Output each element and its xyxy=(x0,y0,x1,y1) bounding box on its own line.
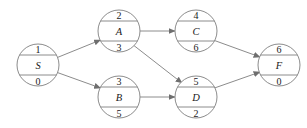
node-s-top-label: 1 xyxy=(36,44,41,55)
node-f-top-label: 6 xyxy=(277,44,282,55)
node-a-top-label: 2 xyxy=(117,10,122,21)
node-f-middle-label: F xyxy=(275,60,283,71)
node-b-middle-label: B xyxy=(116,92,123,103)
node-f-bottom-label: 0 xyxy=(277,76,282,87)
node-d[interactable]: 5 D 2 xyxy=(175,76,217,119)
node-s-bottom-label: 0 xyxy=(36,76,41,87)
node-c-bottom-label: 6 xyxy=(194,42,199,53)
node-c[interactable]: 4 C 6 xyxy=(175,10,217,53)
node-c-middle-label: C xyxy=(192,26,200,37)
edge-d-f xyxy=(215,72,261,88)
node-d-bottom-label: 2 xyxy=(194,108,199,119)
edge-s-b xyxy=(58,73,101,88)
node-b-bottom-label: 5 xyxy=(117,108,122,119)
edge-s-a xyxy=(58,40,101,57)
node-a-middle-label: A xyxy=(115,26,123,37)
node-s-middle-label: S xyxy=(35,60,41,71)
node-d-top-label: 5 xyxy=(194,76,199,87)
network-diagram: 1 S 0 2 A 3 3 B 5 4 C 6 xyxy=(0,0,307,128)
edge-c-f xyxy=(215,41,261,58)
node-a-bottom-label: 3 xyxy=(117,42,122,53)
node-b[interactable]: 3 B 5 xyxy=(98,76,140,119)
edge-layer xyxy=(58,31,260,97)
node-b-top-label: 3 xyxy=(117,76,122,87)
node-d-middle-label: D xyxy=(191,92,200,103)
node-c-top-label: 4 xyxy=(194,10,199,21)
edge-a-d xyxy=(134,46,182,83)
node-a[interactable]: 2 A 3 xyxy=(98,10,140,53)
node-f[interactable]: 6 F 0 xyxy=(258,44,300,87)
node-s[interactable]: 1 S 0 xyxy=(17,44,59,87)
